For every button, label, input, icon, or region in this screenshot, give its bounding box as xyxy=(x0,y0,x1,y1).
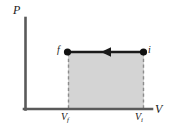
state-point-f-marker xyxy=(64,48,71,55)
work-area-shading xyxy=(68,53,144,109)
x-tick-label-vi: Vi xyxy=(135,112,143,122)
pv-diagram-figure: P V f i Vf Vi xyxy=(0,0,177,131)
volume-axis-label: V xyxy=(155,103,162,115)
x-tick-label-vi-subscript: i xyxy=(141,116,143,124)
x-tick-label-vf: Vf xyxy=(61,112,69,122)
pressure-axis-label: P xyxy=(13,4,20,16)
state-point-i-marker xyxy=(140,48,147,55)
pv-diagram-canvas xyxy=(0,0,177,131)
state-point-f-label: f xyxy=(57,45,60,55)
x-tick-label-vf-subscript: f xyxy=(67,116,69,124)
state-point-i-label: i xyxy=(148,45,151,55)
